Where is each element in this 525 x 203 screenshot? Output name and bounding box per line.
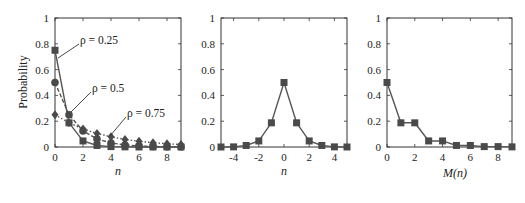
- y-tick-label: 0.8: [201, 38, 215, 50]
- annotation-rho-075: ρ = 0.75: [127, 107, 165, 120]
- x-tick-label: 4: [332, 151, 338, 163]
- y-tick-label: 0.6: [367, 64, 381, 76]
- figure: 00.20.40.60.810246800.20.40.60.81-4-2024…: [0, 0, 525, 203]
- series-line: [387, 83, 512, 147]
- data-marker: [467, 142, 474, 149]
- data-marker: [218, 144, 225, 151]
- x-tick-label: 2: [412, 151, 418, 163]
- x-tick-label: 2: [306, 151, 312, 163]
- data-marker: [318, 142, 325, 149]
- annotation-rho-05: ρ = 0.5: [92, 82, 125, 95]
- y-tick-label: 1: [210, 12, 216, 24]
- y-tick-label: 0.6: [201, 64, 215, 76]
- data-marker: [65, 111, 73, 119]
- data-marker: [344, 144, 351, 151]
- y-tick-label: 1: [376, 12, 382, 24]
- y-tick-label: 1: [44, 12, 50, 24]
- panel-middle: 00.20.40.60.81-4-2024: [201, 12, 350, 163]
- y-tick-label: 0.8: [35, 38, 49, 50]
- x-tick-label: 4: [108, 151, 114, 163]
- series-line: [221, 83, 347, 148]
- y-tick-label: 0.4: [201, 89, 215, 101]
- data-marker: [108, 132, 115, 141]
- data-marker: [306, 137, 313, 144]
- x-tick-label: 0: [281, 151, 287, 163]
- data-marker: [230, 143, 237, 150]
- x-tick-label: 6: [468, 151, 474, 163]
- x-tick-label: -4: [229, 151, 239, 163]
- data-marker: [281, 79, 288, 86]
- x-tick-label: 0: [52, 151, 58, 163]
- panel-right: 00.20.40.60.8102468: [367, 12, 515, 163]
- panel2-x-axis-label: n: [281, 164, 287, 178]
- x-tick-label: 2: [80, 151, 86, 163]
- data-marker: [397, 119, 404, 126]
- data-marker: [94, 142, 101, 149]
- panel3-x-axis-label: M(n): [442, 166, 467, 180]
- x-tick-label: 4: [440, 151, 446, 163]
- data-marker: [331, 143, 338, 150]
- x-tick-label: 6: [136, 151, 142, 163]
- data-marker: [384, 79, 391, 86]
- data-marker: [453, 142, 460, 149]
- plot-frame: [387, 18, 512, 147]
- series-line: [55, 50, 181, 147]
- y-tick-label: 0: [376, 141, 382, 153]
- y-axis-label: Probability: [16, 55, 30, 108]
- data-marker: [495, 143, 502, 150]
- y-tick-label: 0.4: [367, 89, 381, 101]
- data-marker: [51, 79, 59, 87]
- annotation-rho-025: ρ = 0.25: [80, 34, 118, 47]
- data-marker: [425, 137, 432, 144]
- data-marker: [52, 110, 59, 119]
- data-marker: [439, 137, 446, 144]
- y-tick-label: 0.2: [201, 115, 215, 127]
- y-tick-label: 0: [210, 141, 216, 153]
- x-tick-label: 8: [164, 151, 170, 163]
- data-marker: [52, 47, 59, 54]
- data-marker: [255, 137, 262, 144]
- x-tick-label: 8: [495, 151, 501, 163]
- y-tick-label: 0.8: [367, 38, 381, 50]
- data-marker: [80, 137, 87, 144]
- y-tick-label: 0.4: [35, 89, 49, 101]
- data-marker: [481, 143, 488, 150]
- y-tick-label: 0: [44, 141, 50, 153]
- y-tick-label: 0.2: [35, 115, 49, 127]
- data-marker: [411, 119, 418, 126]
- data-marker: [509, 143, 516, 150]
- data-marker: [293, 119, 300, 126]
- x-tick-label: -2: [254, 151, 263, 163]
- data-marker: [268, 119, 275, 126]
- x-tick-label: 0: [384, 151, 390, 163]
- data-marker: [243, 142, 250, 149]
- y-tick-label: 0.6: [35, 64, 49, 76]
- panel1-x-axis-label: n: [115, 164, 121, 178]
- y-tick-label: 0.2: [367, 115, 381, 127]
